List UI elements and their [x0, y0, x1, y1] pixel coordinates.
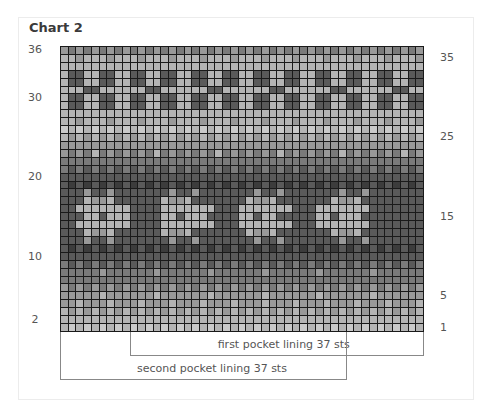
chart-cell — [385, 237, 392, 244]
chart-cell — [100, 253, 107, 260]
chart-cell — [161, 229, 168, 236]
chart-cell — [100, 118, 107, 125]
chart-cell — [138, 316, 145, 323]
chart-cell — [123, 142, 130, 149]
chart-cell — [76, 110, 83, 117]
chart-cell — [308, 174, 315, 181]
chart-cell — [208, 213, 215, 220]
chart-cell — [185, 63, 192, 70]
chart-cell — [354, 245, 361, 252]
chart-cell — [231, 284, 238, 291]
chart-cell — [308, 94, 315, 101]
chart-cell — [262, 253, 269, 260]
chart-cell — [138, 284, 145, 291]
chart-cell — [324, 142, 331, 149]
chart-cell — [409, 182, 416, 189]
chart-cell — [200, 134, 207, 141]
chart-cell — [300, 308, 307, 315]
chart-cell — [339, 284, 346, 291]
chart-cell — [300, 110, 307, 117]
chart-cell — [293, 308, 300, 315]
chart-cell — [393, 174, 400, 181]
chart-cell — [146, 158, 153, 165]
chart-cell — [331, 174, 338, 181]
chart-cell — [378, 300, 385, 307]
chart-cell — [270, 284, 277, 291]
chart-cell — [370, 79, 377, 86]
chart-cell — [169, 182, 176, 189]
chart-cell — [138, 197, 145, 204]
chart-cell — [416, 79, 423, 86]
chart-cell — [308, 292, 315, 299]
chart-cell — [401, 324, 408, 331]
chart-cell — [347, 63, 354, 70]
chart-cell — [185, 316, 192, 323]
chart-cell — [231, 63, 238, 70]
chart-cell — [378, 142, 385, 149]
chart-cell — [362, 102, 369, 109]
chart-cell — [192, 261, 199, 268]
chart-cell — [123, 182, 130, 189]
chart-cell — [385, 118, 392, 125]
chart-cell — [378, 277, 385, 284]
chart-cell — [177, 213, 184, 220]
chart-cell — [115, 118, 122, 125]
chart-cell — [92, 63, 99, 70]
chart-cell — [401, 316, 408, 323]
chart-cell — [192, 277, 199, 284]
chart-cell — [339, 229, 346, 236]
chart-cell — [84, 182, 91, 189]
chart-cell — [246, 197, 253, 204]
chart-cell — [169, 197, 176, 204]
chart-cell — [200, 221, 207, 228]
chart-cell — [270, 245, 277, 252]
chart-cell — [370, 134, 377, 141]
chart-cell — [401, 292, 408, 299]
chart-cell — [84, 71, 91, 78]
chart-cell — [324, 316, 331, 323]
chart-cell — [115, 324, 122, 331]
chart-cell — [92, 79, 99, 86]
chart-cell — [192, 55, 199, 62]
chart-cell — [401, 237, 408, 244]
chart-cell — [401, 79, 408, 86]
chart-cell — [146, 110, 153, 117]
chart-cell — [84, 284, 91, 291]
chart-cell — [115, 55, 122, 62]
chart-cell — [293, 150, 300, 157]
chart-cell — [107, 221, 114, 228]
chart-cell — [84, 292, 91, 299]
chart-cell — [177, 284, 184, 291]
chart-cell — [277, 79, 284, 86]
chart-cell — [409, 166, 416, 173]
chart-cell — [262, 324, 269, 331]
chart-cell — [339, 94, 346, 101]
chart-cell — [331, 316, 338, 323]
chart-cell — [69, 126, 76, 133]
chart-cell — [246, 237, 253, 244]
chart-cell — [270, 63, 277, 70]
chart-cell — [316, 110, 323, 117]
chart-cell — [354, 213, 361, 220]
chart-cell — [208, 142, 215, 149]
chart-cell — [416, 316, 423, 323]
chart-cell — [285, 134, 292, 141]
row-number-label: 1 — [440, 321, 462, 334]
chart-cell — [393, 269, 400, 276]
chart-cell — [324, 71, 331, 78]
chart-cell — [215, 324, 222, 331]
chart-cell — [115, 79, 122, 86]
chart-cell — [154, 237, 161, 244]
chart-cell — [200, 158, 207, 165]
chart-cell — [393, 166, 400, 173]
chart-cell — [246, 221, 253, 228]
chart-cell — [270, 324, 277, 331]
chart-cell — [123, 277, 130, 284]
chart-cell — [131, 316, 138, 323]
chart-cell — [231, 237, 238, 244]
chart-cell — [362, 324, 369, 331]
chart-cell — [347, 205, 354, 212]
chart-cell — [239, 55, 246, 62]
chart-cell — [161, 221, 168, 228]
chart-cell — [192, 63, 199, 70]
